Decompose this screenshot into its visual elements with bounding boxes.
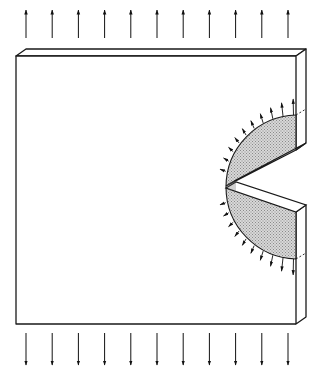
plate [16, 49, 306, 324]
bottom-tension-arrows [26, 333, 288, 365]
plate-right-face-lower [296, 205, 306, 324]
edge-crack-tension-diagram [0, 0, 316, 375]
plate-right-face-upper [296, 49, 306, 150]
plate-top-face [16, 49, 306, 56]
top-tension-arrows [26, 10, 288, 38]
